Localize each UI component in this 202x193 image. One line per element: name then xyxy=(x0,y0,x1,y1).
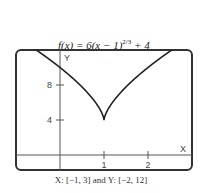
y-tick-label: 8 xyxy=(47,80,52,90)
y-axis-label: Y xyxy=(64,53,70,63)
x-tick-label: 2 xyxy=(146,160,151,170)
window-caption: X: [−1, 3] and Y: [−2, 12] xyxy=(0,175,202,185)
x-tick-label: 1 xyxy=(102,160,107,170)
x-axis-label: X xyxy=(180,144,186,154)
y-tick-label: 4 xyxy=(47,115,52,125)
plot-area: 1248 Y X xyxy=(0,0,202,193)
